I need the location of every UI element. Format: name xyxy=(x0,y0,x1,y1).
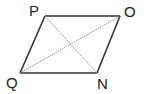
vertex-label-o: O xyxy=(124,3,136,20)
vertex-label-n: N xyxy=(97,75,108,92)
diagonal-qo xyxy=(20,16,120,73)
side-qp xyxy=(20,16,45,73)
vertex-label-p: P xyxy=(29,2,39,19)
parallelogram-diagram: P O Q N xyxy=(0,0,144,94)
diagonal-pn xyxy=(45,16,97,73)
side-on xyxy=(97,16,120,73)
vertex-label-q: Q xyxy=(6,74,18,91)
